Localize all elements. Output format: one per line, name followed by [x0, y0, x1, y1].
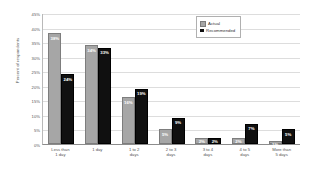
bar-group: 5%9%	[153, 14, 190, 144]
x-axis-tick-line: 1 day	[42, 152, 79, 157]
bar-group: 1%5%	[263, 14, 300, 144]
x-axis-tick-line: days	[189, 152, 226, 157]
chart-legend: ActualRecommended	[196, 16, 241, 38]
bar-group: 34%33%	[80, 14, 117, 144]
y-axis-tick: 20%	[22, 84, 40, 89]
y-axis-tick: 5%	[22, 128, 40, 133]
bar-value-label: 19%	[137, 91, 146, 96]
y-axis-tick: 15%	[22, 99, 40, 104]
legend-swatch-icon	[200, 21, 206, 27]
bar-value-label: 24%	[64, 77, 73, 82]
bar[interactable]: 38%	[48, 33, 61, 144]
bar[interactable]: 19%	[135, 89, 148, 144]
y-axis-tick: 30%	[22, 55, 40, 60]
y-axis-tick: 0%	[22, 143, 40, 148]
y-axis-tick-labels: 45%40%35%30%25%20%15%10%5%0%	[22, 14, 40, 145]
bar-value-label: 34%	[87, 48, 96, 53]
legend-label: Actual	[208, 21, 220, 26]
legend-swatch-icon	[200, 29, 204, 33]
bar[interactable]: 2%	[208, 138, 221, 144]
x-axis-tick: Less than1 day	[42, 147, 79, 158]
x-axis-tick: 2 to 3days	[153, 147, 190, 158]
bar-value-label: 2%	[235, 139, 241, 144]
bar[interactable]: 16%	[122, 97, 135, 144]
bar-value-label: 2%	[199, 139, 205, 144]
plot-area: 38%24%34%33%16%19%5%9%2%2%2%7%1%5%	[42, 14, 300, 145]
x-axis-tick-line: days	[153, 152, 190, 157]
x-axis-tick: More than5 days	[263, 147, 300, 158]
bar-value-label: 33%	[100, 50, 109, 55]
bar-groups: 38%24%34%33%16%19%5%9%2%2%2%7%1%5%	[43, 14, 300, 144]
y-axis-title: Percent of respondents	[15, 6, 20, 116]
bar[interactable]: 34%	[85, 45, 98, 144]
bar-group: 38%24%	[43, 14, 80, 144]
x-axis-tick-labels: Less than1 day1 day1 to 2days2 to 3days3…	[42, 147, 300, 158]
bar-value-label: 2%	[212, 139, 218, 144]
bar-value-label: 9%	[175, 120, 181, 125]
bar[interactable]: 7%	[245, 124, 258, 144]
x-axis-tick: 4 to 5days	[226, 147, 263, 158]
bar[interactable]: 1%	[269, 141, 282, 144]
y-axis-tick: 40%	[22, 26, 40, 31]
legend-item[interactable]: Actual	[200, 21, 235, 27]
bar-value-label: 5%	[162, 132, 168, 137]
bar-value-label: 38%	[51, 36, 60, 41]
y-axis-tick: 25%	[22, 70, 40, 75]
x-axis-tick: 3 to 4days	[189, 147, 226, 158]
bar[interactable]: 2%	[195, 138, 208, 144]
bar-chart: Percent of respondents 45%40%35%30%25%20…	[0, 0, 309, 183]
bar[interactable]: 5%	[159, 129, 172, 144]
x-axis-tick: 1 day	[79, 147, 116, 158]
bar[interactable]: 24%	[61, 74, 74, 144]
bar-value-label: 1%	[272, 142, 278, 147]
x-axis-tick-line: days	[116, 152, 153, 157]
bar[interactable]: 2%	[232, 138, 245, 144]
bar-group: 16%19%	[116, 14, 153, 144]
y-axis-tick: 45%	[22, 12, 40, 17]
x-axis-tick-line: days	[226, 152, 263, 157]
legend-label: Recommended	[206, 28, 235, 33]
x-axis-tick-line: 1 day	[79, 147, 116, 152]
y-axis-tick: 10%	[22, 113, 40, 118]
bar-value-label: 5%	[285, 132, 291, 137]
x-axis-tick: 1 to 2days	[116, 147, 153, 158]
x-axis-tick-line: 5 days	[263, 152, 300, 157]
legend-item[interactable]: Recommended	[200, 28, 235, 33]
bar[interactable]: 33%	[98, 48, 111, 144]
bar[interactable]: 5%	[282, 129, 295, 144]
bar-value-label: 7%	[248, 126, 254, 131]
y-axis-tick: 35%	[22, 41, 40, 46]
bar-value-label: 16%	[124, 100, 133, 105]
bar[interactable]: 9%	[172, 118, 185, 144]
